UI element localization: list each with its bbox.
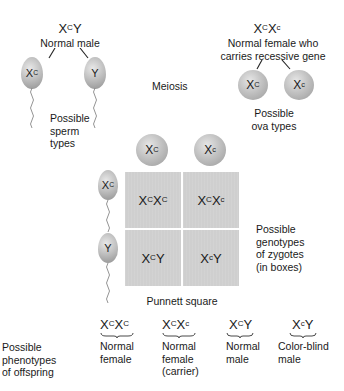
allele-base: X: [212, 193, 221, 208]
brace-icon: [100, 332, 134, 339]
label-line: of offspring: [2, 366, 56, 379]
allele-sup: C: [262, 23, 268, 32]
punnett-sperm-xc: XC: [98, 170, 118, 200]
allele-sup: C: [147, 195, 153, 204]
label-line: Normal: [226, 340, 276, 353]
brace-icon: [162, 332, 196, 339]
allele-sup: C: [206, 195, 212, 204]
sperm-label: Possible sperm types: [50, 112, 90, 150]
allele-base: X: [246, 78, 254, 92]
ovum-xc-recessive: Xc: [284, 70, 314, 100]
allele-base: X: [58, 21, 67, 36]
label-line: sperm: [50, 125, 90, 138]
punnett-cell: XCXc: [183, 172, 239, 228]
allele-base: X: [145, 143, 153, 157]
label-line: Possible: [244, 107, 304, 120]
sperm-tail-icon: [104, 200, 112, 232]
allele-base: X: [162, 317, 171, 332]
label-line: ova types: [244, 120, 304, 133]
allele-base: X: [100, 317, 109, 332]
phenotype-item: XCXc Normal female (carrier): [162, 318, 222, 378]
allele-base: X: [204, 143, 212, 157]
ovum-xc: XC: [238, 70, 268, 100]
punnett-ovum-xc: XC: [136, 134, 168, 166]
allele-sup: C: [33, 69, 38, 76]
label-line: female: [162, 353, 222, 366]
allele-base: X: [26, 67, 33, 79]
label-line: male: [226, 353, 276, 366]
allele-base: Y: [305, 317, 314, 332]
ova-label: Possible ova types: [244, 107, 304, 132]
meiosis-label: Meiosis: [152, 80, 188, 93]
allele-sup: C: [238, 319, 244, 328]
allele-sup: c: [185, 319, 189, 328]
label-line: Normal: [162, 340, 222, 353]
allele-base: Y: [213, 251, 222, 266]
label-line: Possible: [2, 341, 56, 354]
allele-base: X: [200, 251, 209, 266]
phenotype-genotype: XCXC: [100, 318, 150, 332]
label-line: (in boxes): [256, 261, 304, 274]
allele-base: X: [141, 251, 150, 266]
allele-base: X: [153, 193, 162, 208]
genotypes-label: Possible genotypes of zygotes (in boxes): [256, 223, 304, 273]
allele-base: X: [229, 317, 238, 332]
punnett-sperm-y: Y: [98, 233, 118, 263]
allele-sup: C: [153, 145, 158, 154]
label-line: Color-blind: [278, 340, 342, 353]
allele-base: Y: [156, 251, 165, 266]
allele-sup: C: [109, 181, 114, 188]
punnett-cell: XcY: [183, 230, 239, 286]
allele-base: X: [292, 317, 301, 332]
sperm-tail-icon: [28, 88, 36, 132]
label-line: male: [278, 353, 342, 366]
allele-base: X: [293, 78, 301, 92]
allele-sup: c: [301, 80, 305, 89]
allele-base: X: [176, 317, 185, 332]
allele-base: X: [102, 179, 109, 191]
label-line: genotypes: [256, 236, 304, 249]
punnett-cell: XCXC: [125, 172, 181, 228]
allele-sup: C: [109, 319, 115, 328]
brace-icon: [226, 332, 254, 339]
punnett-ovum-xc-recessive: Xc: [194, 134, 226, 166]
allele-base: X: [268, 21, 277, 36]
sperm-tail-icon: [91, 88, 99, 132]
allele-sup: C: [67, 23, 73, 32]
label-line: (carrier): [162, 365, 222, 378]
sperm-xc: XC: [21, 57, 43, 89]
allele-base: Y: [104, 242, 111, 254]
sperm-tail-icon: [104, 263, 112, 303]
phenotype-genotype: XCXc: [162, 318, 222, 332]
allele-base: X: [253, 21, 262, 36]
allele-base: X: [197, 193, 206, 208]
allele-sup: c: [212, 145, 216, 154]
allele-base: X: [114, 317, 123, 332]
phenotype-item: XCY Normal male: [226, 318, 276, 365]
allele-sup: c: [301, 319, 305, 328]
male-genotype: XCY: [40, 22, 100, 36]
allele-base: X: [139, 193, 148, 208]
label-line: Normal: [100, 340, 150, 353]
phenotypes-label: Possible phenotypes of offspring: [2, 341, 56, 379]
phenotype-genotype: XcY: [278, 318, 342, 332]
punnett-cell: XCY: [125, 230, 181, 286]
label-line: Possible: [50, 112, 90, 125]
female-label: Normal female who carries recessive gene: [212, 37, 334, 62]
label-line: phenotypes: [2, 354, 56, 367]
allele-sup: c: [277, 23, 281, 32]
allele-base: Y: [91, 67, 98, 79]
allele-sup: C: [123, 319, 129, 328]
allele-sup: C: [162, 195, 168, 204]
allele-sup: C: [254, 80, 259, 89]
phenotype-item: XcY Color-blind male: [278, 318, 342, 365]
allele-base: Y: [73, 21, 82, 36]
brace-icon: [289, 332, 317, 339]
sperm-y: Y: [84, 57, 106, 89]
label-line: female: [100, 353, 150, 366]
allele-sup: C: [150, 253, 156, 262]
allele-sup: C: [171, 319, 177, 328]
label-line: of zygotes: [256, 248, 304, 261]
label-line: types: [50, 137, 90, 150]
phenotype-genotype: XCY: [226, 318, 276, 332]
